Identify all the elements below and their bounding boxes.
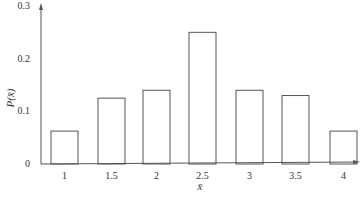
- bar-2.5: [189, 32, 216, 164]
- bar-1: [51, 131, 78, 164]
- bar-3: [236, 90, 263, 164]
- x-tick-label: 1.5: [105, 170, 118, 181]
- y-axis-label: P(x̄): [4, 88, 17, 108]
- bar-4: [330, 131, 357, 164]
- y-axis-arrow-icon: [39, 3, 43, 10]
- bar-3.5: [282, 96, 309, 164]
- x-tick-label: 4: [341, 170, 346, 181]
- y-tick-label: 0.3: [18, 0, 31, 11]
- y-tick-label: 0: [25, 158, 30, 169]
- bar-1.5: [98, 98, 125, 164]
- x-tick-label: 3: [247, 170, 252, 181]
- bar-chart: 00.10.20.3 11.522.533.54 P(x̄) x̄: [0, 0, 364, 197]
- y-tick-label: 0.1: [18, 105, 31, 116]
- x-tick-labels: 11.522.533.54: [62, 170, 346, 181]
- y-tick-labels: 00.10.20.3: [18, 0, 31, 169]
- x-axis-label: x̄: [197, 180, 203, 192]
- bar-2: [143, 90, 170, 164]
- x-tick-label: 2: [154, 170, 159, 181]
- y-tick-label: 0.2: [18, 53, 31, 64]
- bars-group: [51, 32, 357, 164]
- x-tick-label: 1: [62, 170, 67, 181]
- x-tick-label: 3.5: [289, 170, 302, 181]
